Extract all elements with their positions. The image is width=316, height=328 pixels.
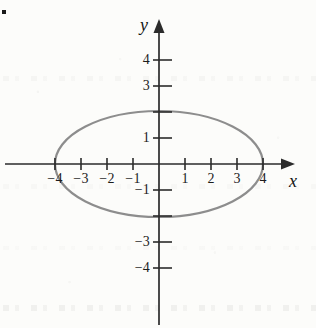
y-tick-label--4: −4 <box>135 261 150 275</box>
x-axis-label: x <box>289 172 297 190</box>
y-tick-label--3: −3 <box>135 235 150 249</box>
y-axis-arrowhead-icon <box>154 19 165 33</box>
x-axis-arrowhead-icon <box>281 159 295 170</box>
x-tick-label--2: −2 <box>99 172 114 186</box>
y-tick-label-1: 1 <box>143 131 150 145</box>
y-tick-label-3: 3 <box>143 79 150 93</box>
x-tick-label-1: 1 <box>181 172 188 186</box>
x-tick-label-3: 3 <box>233 172 240 186</box>
ellipse-figure: −4 −3 −2 −1 1 2 3 4 4 3 1 −1 −3 −4 x y <box>0 0 316 328</box>
y-tick-label--1: −1 <box>135 183 150 197</box>
y-tick-label-4: 4 <box>143 53 150 67</box>
y-axis-label: y <box>140 16 148 34</box>
x-tick-label-4: 4 <box>259 172 266 186</box>
x-tick-label-2: 2 <box>207 172 214 186</box>
x-tick-label--3: −3 <box>73 172 88 186</box>
x-tick-label--4: −4 <box>47 172 62 186</box>
coordinate-plane <box>0 0 316 328</box>
